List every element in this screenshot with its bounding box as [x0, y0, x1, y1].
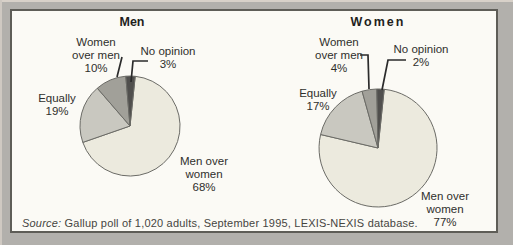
slice-label-women-over-men: Womenover men4% [315, 36, 363, 75]
slice-label-no-opinion: No opinion3% [141, 45, 196, 71]
slice-label-no-opinion: No opinion2% [394, 43, 449, 69]
figure-stage: Men Women Source: Gallup poll of 1,020 a… [0, 0, 513, 245]
slice-label-men-over-women: Men overwomen68% [180, 155, 228, 194]
slice-label-women-over-men: Womenover men10% [72, 36, 120, 75]
slice-label-equally: Equally19% [38, 92, 76, 118]
pie-title-women: Women [351, 15, 406, 29]
pie-title-men: Men [120, 15, 145, 29]
slice-label-equally: Equally17% [299, 87, 337, 113]
source-note: Source: Gallup poll of 1,020 adults, Sep… [22, 217, 418, 229]
slice-label-men-over-women: Men overwomen77% [421, 190, 469, 229]
source-text: Gallup poll of 1,020 adults, September 1… [61, 217, 417, 229]
source-label: Source: [22, 217, 61, 229]
